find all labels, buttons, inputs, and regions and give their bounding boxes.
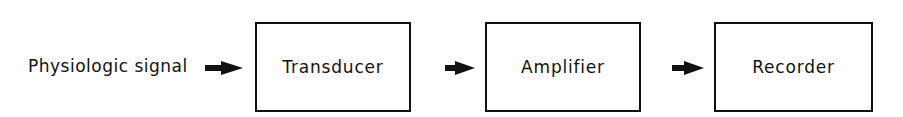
recorder-label: Recorder xyxy=(752,57,835,77)
transducer-label: Transducer xyxy=(282,57,383,77)
input-label: Physiologic signal xyxy=(28,56,188,76)
amplifier-block: Amplifier xyxy=(485,22,641,112)
arrow-right-icon xyxy=(205,61,243,75)
arrow-right-icon xyxy=(672,61,704,75)
transducer-block: Transducer xyxy=(255,22,411,112)
arrow-right-icon xyxy=(445,61,475,75)
recorder-block: Recorder xyxy=(714,22,873,112)
amplifier-label: Amplifier xyxy=(521,57,605,77)
